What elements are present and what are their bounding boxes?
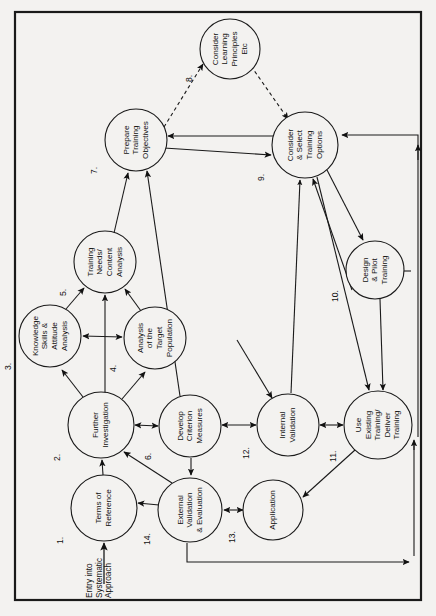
node-label-2-line-1: Further: [91, 412, 100, 438]
node-number-2: 2.: [52, 454, 62, 461]
node-1[interactable]: Terms ofReference: [71, 475, 137, 541]
node-label-7-line-3: Objectives: [141, 121, 150, 159]
node-label-5-line-1: Training: [86, 248, 95, 277]
node-label-11-line-4: Deliver: [383, 412, 392, 437]
entry-label: Entry intoSystematicApproach: [85, 558, 113, 598]
node-label-11-line-3: Training/: [373, 409, 382, 441]
node-number-6: 6.: [143, 453, 153, 460]
entry-label-line-2: Systematic: [95, 558, 104, 598]
node-2[interactable]: FurtherInvestigation: [68, 392, 134, 458]
node-label-12-line-1: Internal: [278, 411, 287, 438]
node-label-1-line-1: Terms of: [94, 492, 103, 524]
node-label-9-line-1: Consider: [286, 129, 295, 162]
node-number-10: 10.: [330, 290, 340, 302]
node-label-10-line-3: Training: [380, 256, 389, 285]
node-label-6-line-1: Develop: [176, 411, 185, 441]
node-label-2-line-2: Investigation: [101, 402, 110, 447]
node-number-1: 1.: [55, 537, 65, 544]
node-label-13-line-1: Application: [268, 490, 277, 530]
node-5[interactable]: TrainingNeeds/ContentAnalysis: [74, 231, 136, 293]
node-8[interactable]: ConsiderLearningPrinciplesEtc: [200, 19, 260, 79]
node-label-11-line-2: Existing: [364, 411, 373, 439]
node-label-9-line-4: Options: [315, 131, 324, 159]
node-label-6-line-3: Measures: [195, 408, 204, 444]
node-label-5-line-4: Analysis: [115, 247, 124, 277]
node-label-9-line-3: Training: [305, 131, 314, 160]
node-label-8-line-4: Etc: [240, 43, 249, 55]
node-number-13: 13.: [227, 531, 237, 543]
node-label-4-line-1: Analysis: [136, 323, 145, 353]
node-label-14-line-3: & Evaluation: [195, 487, 204, 532]
node-number-12: 12.: [241, 447, 251, 459]
node-label-4-line-3: Target: [155, 326, 164, 349]
node-label-3-line-3: Attitude: [50, 322, 59, 350]
node-12[interactable]: InternalValidation: [257, 394, 319, 456]
node-13[interactable]: Application: [243, 480, 303, 540]
node-4[interactable]: Analysisof theTargetPopulation: [124, 307, 186, 369]
node-3[interactable]: KnowledgeSkills &AttitudeAnalysis: [19, 305, 81, 367]
node-label-3-line-1: Knowledge: [31, 315, 40, 356]
entry-label-line-3: Approach: [104, 563, 113, 598]
entry-label-line-1: Entry into: [85, 563, 94, 598]
node-number-5: 5.: [58, 289, 68, 296]
training-flow-diagram: Terms ofReferenceFurtherInvestigationKno…: [0, 0, 436, 616]
node-label-10-line-1: Design: [361, 257, 370, 282]
node-label-11-line-1: Use: [354, 417, 363, 432]
node-label-6-line-2: Criterion: [185, 411, 194, 442]
node-label-7-line-1: Prepare: [122, 125, 131, 154]
node-number-9: 9.: [256, 174, 266, 181]
node-label-11-line-5: Training: [392, 411, 401, 440]
node-label-4-line-2: of the: [145, 327, 154, 348]
node-label-8-line-3: Principles: [230, 31, 239, 66]
node-label-5-line-2: Needs/: [95, 248, 104, 274]
node-label-14-line-2: Validation: [185, 493, 194, 528]
node-label-9-line-2: & Select: [295, 129, 304, 160]
node-number-14: 14.: [142, 533, 152, 545]
diagram-page: Terms ofReferenceFurtherInvestigationKno…: [0, 0, 436, 616]
node-label-12-line-2: Validation: [288, 408, 297, 443]
node-14[interactable]: ExternalValidation& Evaluation: [158, 478, 222, 542]
node-label-8-line-1: Consider: [211, 33, 220, 66]
node-number-11: 11.: [328, 451, 338, 462]
node-number-3: 3.: [3, 363, 13, 370]
node-label-5-line-3: Content: [105, 247, 114, 276]
node-number-7: 7.: [89, 167, 99, 174]
node-label-10-line-2: & Pilot: [370, 258, 379, 282]
node-label-4-line-4: Population: [165, 319, 174, 357]
node-10[interactable]: Design& PilotTraining: [346, 241, 404, 299]
node-number-8: 8.: [184, 75, 194, 82]
node-7[interactable]: PrepareTrainingObjectives: [105, 109, 167, 171]
node-label-8-line-2: Learning: [220, 33, 229, 65]
node-number-4: 4.: [108, 365, 118, 372]
node-label-7-line-2: Training: [131, 126, 140, 155]
node-11[interactable]: UseExistingTraining/DeliverTraining: [344, 391, 412, 459]
node-label-3-line-4: Analysis: [60, 321, 69, 351]
node-label-3-line-2: Skills &: [40, 322, 49, 349]
node-9[interactable]: Consider& SelectTrainingOptions: [272, 112, 338, 178]
node-6[interactable]: DevelopCriterionMeasures: [159, 395, 221, 457]
node-label-1-line-2: Reference: [104, 489, 113, 527]
node-label-14-line-1: External: [176, 495, 185, 525]
